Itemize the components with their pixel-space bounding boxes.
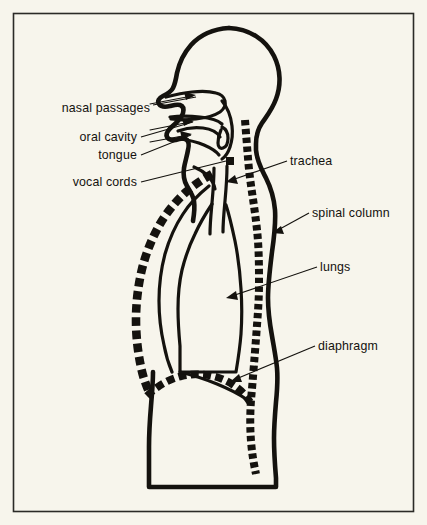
label-diaphragm: diaphragm — [318, 339, 378, 353]
label-trachea: trachea — [290, 154, 332, 168]
vocal-cords-marker — [226, 157, 234, 165]
label-vocal-cords: vocal cords — [73, 175, 137, 189]
label-lungs: lungs — [320, 260, 350, 274]
label-tongue: tongue — [98, 148, 137, 162]
anatomy-diagram: nasal passages oral cavity tongue vocal … — [0, 0, 427, 525]
paper-background — [0, 0, 427, 525]
figure-page: nasal passages oral cavity tongue vocal … — [0, 0, 427, 525]
label-oral-cavity: oral cavity — [80, 130, 138, 144]
label-nasal-passages: nasal passages — [62, 101, 150, 115]
label-spinal-column: spinal column — [312, 206, 390, 220]
